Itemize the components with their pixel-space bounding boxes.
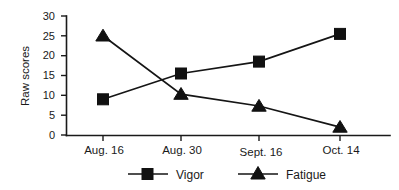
line-chart-canvas: 30 25 20 15 10 5 0 Raw scores Aug [0, 0, 399, 190]
y-tick-label-5: 5 [49, 109, 55, 121]
x-tick-label-aug-30: Aug. 30 [162, 144, 202, 156]
data-point-fatigue-0 [96, 29, 110, 41]
legend-item-fatigue[interactable]: Fatigue [238, 167, 326, 182]
y-tick-label-10: 10 [43, 89, 55, 101]
y-tick-label-15: 15 [43, 69, 55, 81]
y-tick-label-20: 20 [43, 49, 55, 61]
legend-label-vigor: Vigor [176, 168, 204, 182]
series-line-vigor [103, 34, 340, 99]
data-point-vigor-0 [98, 94, 109, 105]
legend-item-vigor[interactable]: Vigor [128, 168, 204, 182]
x-axis [67, 136, 391, 142]
data-point-vigor-1 [176, 68, 187, 79]
x-tick-label-sept-16: Sept. 16 [240, 146, 283, 158]
y-axis [61, 16, 67, 136]
chart-figure: 30 25 20 15 10 5 0 Raw scores Aug [0, 0, 399, 190]
legend-label-fatigue: Fatigue [286, 168, 326, 182]
y-tick-label-30: 30 [43, 10, 55, 22]
y-tick-label-25: 25 [43, 30, 55, 42]
series-line-fatigue [103, 36, 340, 127]
x-tick-label-oct-14: Oct. 14 [322, 144, 360, 156]
chart-legend: Vigor Fatigue [128, 167, 326, 182]
data-point-vigor-2 [254, 56, 265, 67]
legend-triangle-marker-icon [251, 167, 265, 180]
data-point-fatigue-1 [174, 88, 188, 100]
x-tick-label-aug-16: Aug. 16 [84, 144, 124, 156]
data-point-vigor-3 [335, 28, 346, 39]
y-axis-title: Raw scores [19, 46, 31, 106]
y-tick-label-0: 0 [49, 129, 55, 141]
legend-square-marker-icon [142, 169, 153, 180]
